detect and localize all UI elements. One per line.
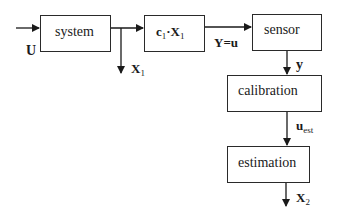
calibration-block: calibration <box>227 75 322 112</box>
input-signal-label: U <box>26 43 36 59</box>
c1x1-label: c1·X1 <box>156 24 185 41</box>
estimation-label: estimation <box>238 155 296 171</box>
system-label: system <box>55 24 94 40</box>
x2-signal-label: X2 <box>296 190 310 207</box>
yu-signal-label: Y=u <box>214 35 238 51</box>
estimation-block: estimation <box>227 146 310 183</box>
c1x1-block: c1·X1 <box>144 15 205 52</box>
system-block: system <box>40 15 111 52</box>
x1-signal-label: X1 <box>131 61 145 78</box>
calibration-label: calibration <box>238 83 298 99</box>
y-signal-label: y <box>296 57 303 73</box>
sensor-block: sensor <box>252 14 322 51</box>
uest-signal-label: uest <box>296 118 313 135</box>
sensor-label: sensor <box>264 22 300 38</box>
